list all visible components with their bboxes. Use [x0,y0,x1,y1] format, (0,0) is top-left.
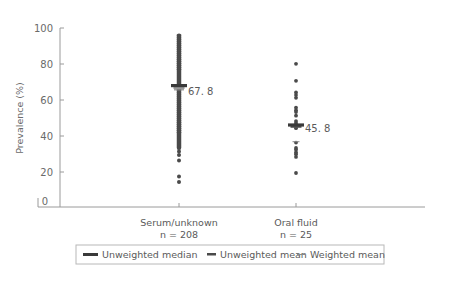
y-tick-60: 60 [40,95,53,106]
oral-fluid-points [294,62,298,175]
data-point [177,180,181,184]
data-point [294,171,298,175]
data-point [294,79,298,83]
serum-points [177,34,181,184]
y-tick-80: 80 [40,59,53,70]
serum-summary-markers [171,84,187,90]
serum-median-marker [171,84,187,87]
x-axis [60,203,425,207]
data-point [177,175,181,179]
legend: Unweighted median Unweighted mean Weight… [76,245,385,264]
oral-fluid-median-marker [288,123,304,126]
data-point [294,155,298,159]
y-axis-title: Prevalence (%) [14,82,25,154]
y-axis: 100 80 60 40 20 0 Prevalence (%) [14,23,64,207]
y-tick-0: 0 [42,196,48,207]
legend-mean-swatch [207,253,216,256]
serum-unweighted-mean-marker [174,87,185,89]
prevalence-chart: 100 80 60 40 20 0 Prevalence (%) 67. 8 4… [0,0,452,281]
legend-mean-label: Unweighted mean [220,249,307,260]
data-point [294,62,298,66]
legend-weighted-mean-label: Weighted mean [310,249,385,260]
data-point [294,114,298,118]
legend-weighted-mean-swatch [297,254,305,255]
category-oral-fluid-label: Oral fluid [274,217,318,228]
category-serum-label: Serum/unknown [140,217,217,228]
oral-fluid-weighted-mean-marker [293,141,300,142]
oral-fluid-summary-markers [288,123,304,142]
y-tick-100: 100 [34,23,53,34]
y-tick-40: 40 [40,131,53,142]
data-point [294,96,298,100]
data-point [177,159,181,163]
category-oral-fluid-n: n = 25 [280,229,312,240]
data-point [177,34,181,38]
serum-median-label: 67. 8 [188,86,213,97]
serum-weighted-mean-marker [174,89,184,90]
data-point [177,153,181,157]
y-tick-20: 20 [40,167,53,178]
category-serum-n: n = 208 [160,229,198,240]
data-point [177,150,181,154]
oral-fluid-median-label: 45. 8 [305,123,330,134]
legend-median-swatch [83,253,98,256]
data-point [294,110,298,114]
legend-median-label: Unweighted median [102,249,198,260]
